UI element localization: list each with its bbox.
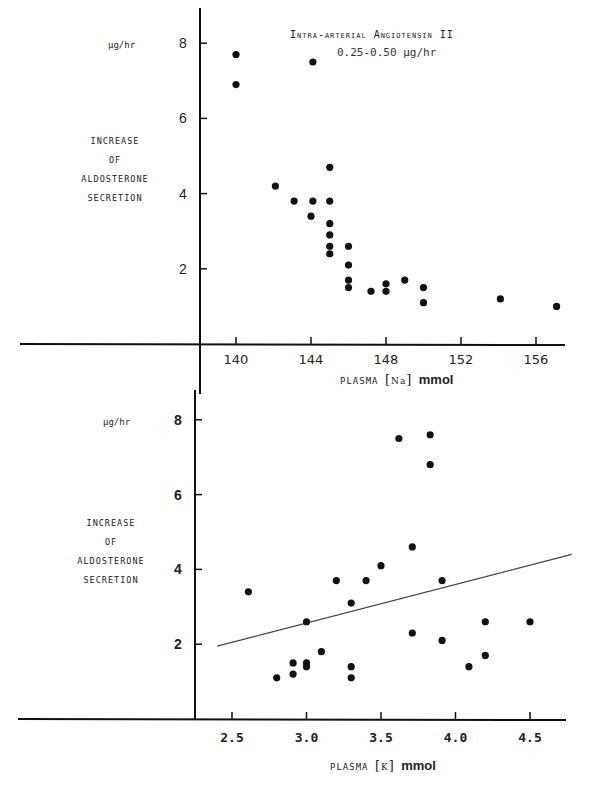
lower-data-point bbox=[363, 577, 370, 584]
upper-y-axis-label: INCREASE OF ALDOSTERONE SECRETION bbox=[60, 132, 170, 208]
lower-ylabel-line-2: OF bbox=[56, 533, 166, 552]
lower-data-point bbox=[348, 674, 355, 681]
lower-x-axis bbox=[18, 719, 566, 720]
lower-x-tick-label: 2.5 bbox=[220, 730, 243, 745]
lower-x-axis-label: PLASMA [K] mmol bbox=[330, 758, 436, 773]
lower-data-point bbox=[273, 674, 280, 681]
upper-x-tick-label: 156 bbox=[524, 352, 549, 367]
lower-data-point bbox=[289, 659, 296, 666]
upper-x-tick-label: 144 bbox=[299, 352, 324, 367]
upper-data-point bbox=[382, 280, 389, 287]
upper-ylabel-line-4: SECRETION bbox=[60, 189, 170, 208]
lower-y-tick-label: 2 bbox=[174, 636, 182, 652]
upper-data-point bbox=[497, 295, 504, 302]
lower-regression-line bbox=[217, 554, 572, 646]
lower-data-point bbox=[318, 648, 325, 655]
lower-data-point bbox=[395, 435, 402, 442]
upper-data-point bbox=[553, 303, 560, 310]
lower-xlabel-prefix: PLASMA bbox=[330, 762, 369, 772]
upper-data-point bbox=[345, 276, 352, 283]
figure-canvas: 246814014414815215624682.53.03.54.04.5 bbox=[0, 0, 595, 796]
lower-x-tick-label: 4.5 bbox=[518, 730, 541, 745]
upper-x-tick-label: 140 bbox=[224, 352, 249, 367]
upper-y-tick-label: 2 bbox=[179, 261, 187, 277]
lower-data-point bbox=[303, 618, 310, 625]
lower-data-point bbox=[438, 637, 445, 644]
lower-data-point bbox=[303, 663, 310, 670]
lower-y-tick-label: 6 bbox=[174, 487, 182, 503]
upper-data-point bbox=[309, 58, 316, 65]
lower-data-point bbox=[438, 577, 445, 584]
lower-data-point bbox=[482, 652, 489, 659]
lower-data-point bbox=[348, 599, 355, 606]
lower-data-point bbox=[465, 663, 472, 670]
lower-data-point bbox=[289, 671, 296, 678]
upper-data-point bbox=[272, 182, 279, 189]
upper-data-point bbox=[420, 284, 427, 291]
upper-y-tick-label: 6 bbox=[179, 110, 187, 126]
lower-ylabel-line-3: ALDOSTERONE bbox=[56, 552, 166, 571]
upper-ylabel-line-3: ALDOSTERONE bbox=[60, 170, 170, 189]
upper-data-point bbox=[291, 198, 298, 205]
lower-x-tick-label: 3.5 bbox=[369, 730, 392, 745]
lower-ylabel-line-1: INCREASE bbox=[56, 514, 166, 533]
upper-data-point bbox=[420, 299, 427, 306]
upper-ylabel-line-1: INCREASE bbox=[60, 132, 170, 151]
upper-data-point bbox=[307, 213, 314, 220]
upper-data-point bbox=[345, 261, 352, 268]
upper-data-point bbox=[326, 231, 333, 238]
lower-data-point bbox=[526, 618, 533, 625]
upper-ylabel-line-2: OF bbox=[60, 151, 170, 170]
upper-data-point bbox=[309, 198, 316, 205]
upper-data-point bbox=[326, 164, 333, 171]
upper-data-point bbox=[345, 284, 352, 291]
upper-xlabel-ion: Na bbox=[391, 376, 406, 386]
lower-data-point bbox=[377, 562, 384, 569]
upper-y-tick-label: 8 bbox=[179, 35, 187, 51]
upper-data-point bbox=[326, 243, 333, 250]
lower-data-point bbox=[333, 577, 340, 584]
lower-y-unit: µg/hr bbox=[103, 417, 130, 427]
lower-y-tick-label: 4 bbox=[174, 561, 182, 577]
upper-data-point bbox=[326, 220, 333, 227]
lower-data-point bbox=[245, 588, 252, 595]
lower-y-axis-label: INCREASE OF ALDOSTERONE SECRETION bbox=[56, 514, 166, 590]
lower-data-point bbox=[427, 461, 434, 468]
lower-xlabel-ion: K bbox=[381, 762, 389, 772]
lower-ylabel-line-4: SECRETION bbox=[56, 571, 166, 590]
upper-x-tick-label: 148 bbox=[374, 352, 399, 367]
lower-xlabel-unit: mmol bbox=[401, 758, 436, 773]
upper-data-point bbox=[367, 288, 374, 295]
lower-x-tick-label: 3.0 bbox=[295, 730, 319, 745]
lower-data-point bbox=[409, 543, 416, 550]
upper-data-point bbox=[326, 250, 333, 257]
upper-xlabel-unit: mmol bbox=[419, 372, 454, 387]
upper-y-unit: µg/hr bbox=[108, 40, 135, 50]
upper-x-axis-label: PLASMA [Na] mmol bbox=[340, 372, 453, 387]
upper-data-point bbox=[382, 288, 389, 295]
upper-data-point bbox=[345, 243, 352, 250]
upper-chart-subtitle: 0.25-0.50 µg/hr bbox=[337, 46, 436, 59]
upper-data-point bbox=[232, 51, 239, 58]
upper-data-point bbox=[401, 276, 408, 283]
upper-y-tick-label: 4 bbox=[179, 186, 187, 202]
lower-data-point bbox=[427, 431, 434, 438]
upper-data-point bbox=[232, 81, 239, 88]
upper-chart-title: Intra-arterial Angiotensin II bbox=[290, 29, 454, 40]
lower-data-point bbox=[348, 663, 355, 670]
upper-data-point bbox=[326, 198, 333, 205]
upper-x-axis bbox=[20, 344, 565, 345]
lower-x-tick-label: 4.0 bbox=[444, 730, 468, 745]
upper-xlabel-prefix: PLASMA bbox=[340, 376, 379, 386]
upper-x-tick-label: 152 bbox=[449, 352, 474, 367]
lower-data-point bbox=[482, 618, 489, 625]
lower-data-point bbox=[409, 629, 416, 636]
lower-y-tick-label: 8 bbox=[174, 412, 182, 428]
